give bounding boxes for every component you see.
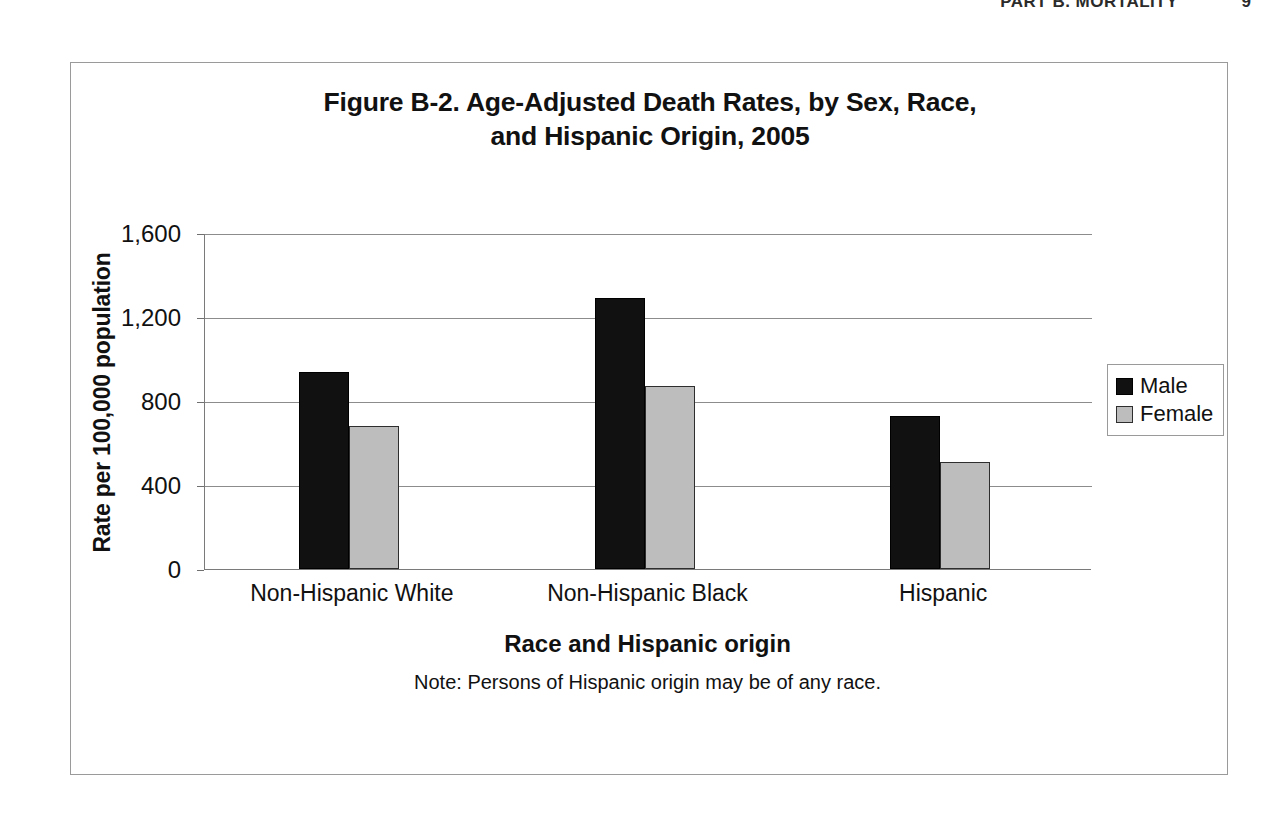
chart-title-line-1: Figure B-2. Age-Adjusted Death Rates, by… bbox=[71, 85, 1229, 119]
page-header-title: PART B. MORTALITY bbox=[1000, 0, 1178, 12]
legend-item: Female bbox=[1116, 400, 1213, 428]
legend-item: Male bbox=[1116, 372, 1213, 400]
bar-male bbox=[890, 416, 940, 569]
y-axis-tick-label: 400 bbox=[141, 472, 181, 500]
bar-female bbox=[645, 386, 695, 569]
y-axis-tick bbox=[197, 570, 204, 571]
y-axis-tick bbox=[197, 234, 204, 235]
gridline bbox=[205, 234, 1092, 235]
gridline bbox=[205, 318, 1092, 319]
y-axis-tick-label: 1,200 bbox=[121, 304, 181, 332]
figure-frame: Figure B-2. Age-Adjusted Death Rates, by… bbox=[70, 62, 1228, 775]
y-axis-tick bbox=[197, 402, 204, 403]
plot-area-wrapper: 04008001,2001,600 Non-Hispanic WhiteNon-… bbox=[204, 234, 1091, 570]
y-axis-tick bbox=[197, 486, 204, 487]
legend: MaleFemale bbox=[1107, 364, 1224, 436]
legend-label: Female bbox=[1140, 401, 1213, 427]
bar-female bbox=[349, 426, 399, 569]
y-axis-tick-label: 1,600 bbox=[121, 220, 181, 248]
y-axis-tick-label: 0 bbox=[168, 556, 181, 584]
chart-note: Note: Persons of Hispanic origin may be … bbox=[204, 671, 1091, 694]
y-axis-title: Rate per 100,000 population bbox=[87, 234, 117, 570]
page-header: PART B. MORTALITY 9 bbox=[0, 0, 1273, 12]
legend-label: Male bbox=[1140, 373, 1188, 399]
x-axis-title: Race and Hispanic origin bbox=[204, 630, 1091, 658]
y-axis-title-label: Rate per 100,000 population bbox=[89, 252, 116, 552]
bar-male bbox=[595, 298, 645, 569]
x-axis-category-label: Non-Hispanic White bbox=[250, 580, 453, 607]
x-axis-category-label: Non-Hispanic Black bbox=[547, 580, 748, 607]
y-axis-tick bbox=[197, 318, 204, 319]
bar-female bbox=[940, 462, 990, 569]
bar-male bbox=[299, 372, 349, 569]
x-axis-category-label: Hispanic bbox=[899, 580, 987, 607]
legend-swatch-icon bbox=[1116, 406, 1133, 423]
page-number: 9 bbox=[1242, 0, 1251, 12]
plot-area bbox=[204, 234, 1091, 570]
chart-title-line-2: and Hispanic Origin, 2005 bbox=[71, 119, 1229, 153]
chart-title: Figure B-2. Age-Adjusted Death Rates, by… bbox=[71, 85, 1229, 153]
y-axis-tick-label: 800 bbox=[141, 388, 181, 416]
legend-swatch-icon bbox=[1116, 378, 1133, 395]
